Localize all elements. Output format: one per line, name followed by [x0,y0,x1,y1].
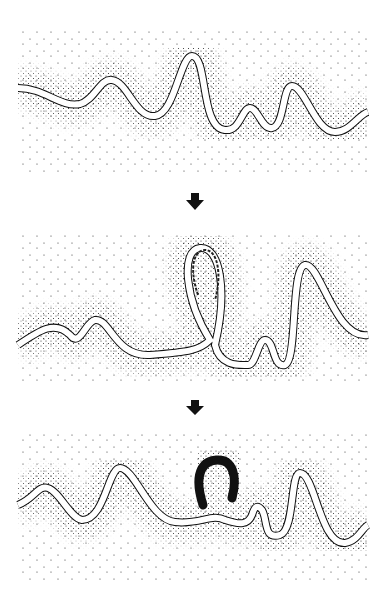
down-arrow-2 [186,400,204,415]
oxbow-formation-diagram [0,0,390,601]
down-arrow-1 [186,193,204,210]
stage-3-panel [18,432,368,580]
stage-1-panel [18,30,368,175]
stage-2-panel [18,232,368,384]
